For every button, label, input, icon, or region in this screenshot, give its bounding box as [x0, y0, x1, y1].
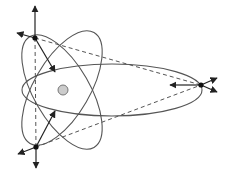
- orbital-diagram: [0, 0, 232, 172]
- bottom-inward-arrow-icon: [36, 111, 55, 147]
- top-to-bottom-dashed: [35, 38, 36, 147]
- nucleus-icon: [58, 85, 68, 95]
- nucleus-group: [58, 85, 68, 95]
- arrows-group: [17, 6, 217, 168]
- horizontal-orbit: [22, 64, 202, 116]
- right-down-arrow-icon: [201, 85, 217, 92]
- bottom-left-arrow-icon: [18, 147, 36, 154]
- diagram-canvas: Atom-like diagram: central nucleus with …: [0, 0, 232, 172]
- bottom-left-point: [33, 144, 38, 149]
- top-to-right-dashed: [35, 38, 201, 85]
- right-up-arrow-icon: [201, 78, 217, 85]
- top-left-point: [32, 35, 37, 40]
- right-point: [198, 82, 203, 87]
